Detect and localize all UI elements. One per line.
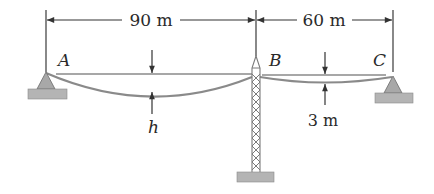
point-b-label: B [268,50,282,70]
cable-diagram: 90 m 60 m h 3 m A B C [0,0,434,194]
cable-bc [260,77,392,83]
span-ab-label: 90 m [129,10,172,30]
cables [46,73,392,97]
pin-support-c [375,76,413,103]
dimension-span-bc: 60 m [257,10,392,30]
point-c-label: C [373,50,386,70]
sag-bc-label: 3 m [308,111,338,130]
span-bc-label: 60 m [302,10,345,30]
sag-ab-label: h [148,117,159,137]
dimension-span-ab: 90 m [47,10,255,30]
point-a-label: A [56,50,70,70]
cable-ab [46,73,252,97]
pin-support-a [28,72,67,99]
chord-lines [56,74,386,75]
